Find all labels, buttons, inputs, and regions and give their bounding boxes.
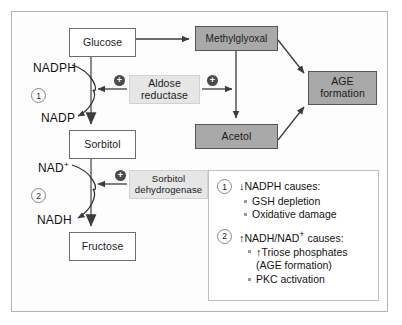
node-sorbitol-dehydrogenase: Sorbitol dehydrogenase [129,170,208,199]
node-aldose-reductase-label-line2: reductase [141,89,188,101]
legend-entry-1-number: 1 [217,179,232,194]
plus-circle-icon-aldose-left: + [114,75,125,86]
node-aldose-reductase: Aldose reductase [129,75,200,104]
node-sorbitol-label: Sorbitol [84,139,120,151]
node-age-formation-label-line1: AGE [331,75,353,87]
node-glucose-label: Glucose [83,37,122,49]
legend-entry-1-bullets: GSH depletion Oxidative damage [243,195,372,222]
node-methylglyoxal-label: Methylglyoxal [206,33,268,44]
figure-panel: Glucose Sorbitol Fructose Methylglyoxal … [11,11,388,312]
legend-entry-2: 2 ↑NADH/NAD+ causes: ↑Triose phosphates … [217,229,372,286]
cofactor-label-nad-plus-superscript: + [64,160,69,169]
node-fructose-label: Fructose [82,241,124,253]
node-methylglyoxal: Methylglyoxal [195,26,278,51]
edge-nadph-to-nadp [78,90,95,116]
node-sorbitol: Sorbitol [69,130,136,159]
legend-bullet-oxidative-damage: Oxidative damage [243,208,372,221]
legend-bullet-triose-phosphates-continuation: (AGE formation) [247,259,372,272]
legend-entry-2-heading: 2 ↑NADH/NAD+ causes: [217,229,372,244]
legend-bullet-triose-phosphates-text: Triose phosphates [262,246,348,258]
node-acetol: Acetol [195,124,278,149]
legend-entry-1-heading: 1 ↓NADPH causes: [217,179,372,194]
node-aldose-reductase-label-line1: Aldose [148,77,181,89]
legend-entry-1: 1 ↓NADPH causes: GSH depletion Oxidative… [217,179,372,222]
edge-methylglyoxal-to-age [278,40,304,73]
node-acetol-label: Acetol [222,131,252,143]
node-glucose: Glucose [69,28,136,57]
cofactor-label-nadph: NADPH [33,61,76,75]
legend-entry-2-heading-base: NADH/NAD [245,232,300,244]
plus-circle-icon-aldose-right: + [207,75,218,86]
edge-nadplus-arc-in [72,165,95,190]
node-sorbitol-dehydrogenase-label-line2: dehydrogenase [135,184,202,195]
legend-entry-2-bullets: ↑Triose phosphates (AGE formation) PKC a… [247,245,372,286]
edge-acetol-to-age [278,107,304,140]
legend-bullet-triose-phosphates: ↑Triose phosphates [247,245,372,259]
cofactor-label-nad-plus-base: NAD [38,161,64,175]
legend-entry-2-heading-tail: causes: [304,232,343,244]
legend-bullet-pkc-activation: PKC activation [247,273,372,286]
legend-panel: 1 ↓NADPH causes: GSH depletion Oxidative… [208,170,379,301]
node-sorbitol-dehydrogenase-label-line1: Sorbitol [152,173,185,184]
edge-nadplus-to-nadh [78,189,95,218]
node-age-formation-label-line2: formation [320,87,365,99]
step-marker-1: 1 [31,88,46,103]
plus-circle-icon-sorbitol-dehydrogenase: + [115,170,126,181]
legend-entry-1-heading-text: NADPH causes: [245,180,321,192]
node-age-formation: AGE formation [308,71,377,105]
legend-bullet-gsh-depletion: GSH depletion [243,195,372,208]
cofactor-label-nadh: NADH [37,213,72,227]
cofactor-label-nadp: NADP [41,111,75,125]
node-fructose: Fructose [69,232,136,261]
legend-entry-2-number: 2 [217,229,232,244]
cofactor-label-nad-plus: NAD+ [38,160,69,175]
step-marker-2: 2 [31,188,46,203]
